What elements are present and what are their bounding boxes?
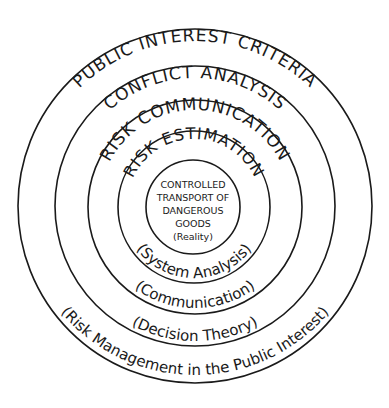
- ring3-subtitle: (Decision Theory): [129, 313, 260, 345]
- core-line-3: DANGEROUS: [162, 205, 223, 216]
- concentric-diagram: PUBLIC INTEREST CRITERIA CONFLICT ANALYS…: [0, 0, 389, 408]
- ring1-subtitle: (System Analysis): [133, 240, 255, 282]
- core-line-5: (Reality): [173, 231, 213, 242]
- core-line-2: TRANSPORT OF: [156, 192, 230, 203]
- core-line-4: GOODS: [175, 218, 211, 229]
- core-line-1: CONTROLLED: [160, 179, 225, 190]
- ring1-title: RISK ESTIMATION: [119, 124, 268, 181]
